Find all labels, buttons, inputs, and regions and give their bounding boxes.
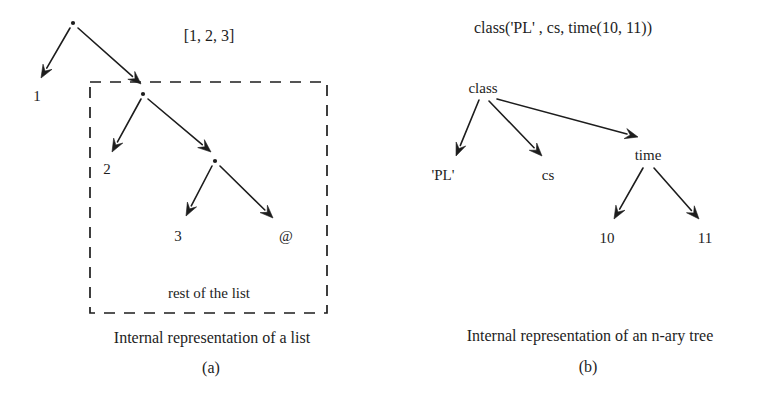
tree-nodes-group: class'PL'cstime1011 xyxy=(432,80,713,246)
figure-root: [1, 2, 3] 123@ rest of the list Internal… xyxy=(0,0,764,398)
list-edge-cons2-to-leaf3 xyxy=(191,166,212,206)
tree-edge-time-to-ten xyxy=(620,168,643,209)
list-edge-cons0-to-leaf1 xyxy=(47,28,70,68)
tree-node-label-class: class xyxy=(468,80,497,96)
tree-edge-class-to-pl xyxy=(460,100,479,145)
list-cons-cell-cons2 xyxy=(213,159,217,163)
tree-edge-class-to-cs xyxy=(489,101,534,148)
tree-edges-group xyxy=(456,99,699,219)
rest-of-list-note: rest of the list xyxy=(168,285,251,301)
list-cons-cell-cons1 xyxy=(141,92,145,96)
list-expression-label: [1, 2, 3] xyxy=(184,27,235,44)
tree-node-label-eleven: 11 xyxy=(698,230,712,246)
list-nodes-group: 123@ xyxy=(33,21,293,244)
list-edge-cons0-to-cons1 xyxy=(78,28,132,76)
panel-b: class('PL' , cs, time(10, 11)) class'PL'… xyxy=(432,19,714,376)
panel-a-caption: Internal representation of a list xyxy=(114,329,311,347)
tree-arrowhead-time-to-ten xyxy=(614,205,625,219)
list-node-label-leaf1: 1 xyxy=(33,88,41,104)
panel-b-caption: Internal representation of an n-ary tree xyxy=(467,327,714,345)
tree-node-label-cs: cs xyxy=(542,167,555,183)
tree-node-label-ten: 10 xyxy=(600,230,615,246)
tree-node-label-time: time xyxy=(635,147,662,163)
rest-of-list-dashed-box xyxy=(90,82,327,313)
term-expression-label: class('PL' , cs, time(10, 11)) xyxy=(474,19,652,37)
list-edge-cons2-to-leafnil xyxy=(220,166,265,210)
tree-node-label-pl: 'PL' xyxy=(432,167,455,183)
tree-edge-time-to-eleven xyxy=(654,168,691,210)
list-arrowhead-cons0-to-leaf1 xyxy=(41,64,52,78)
panel-b-caption-tag: (b) xyxy=(579,358,598,376)
panel-a-caption-tag: (a) xyxy=(202,359,220,377)
list-node-label-leaf3: 3 xyxy=(174,228,182,244)
list-edge-cons1-to-cons2 xyxy=(148,99,202,145)
list-node-label-leaf2: 2 xyxy=(103,161,111,177)
list-edge-cons1-to-leaf2 xyxy=(117,99,141,142)
list-cons-cell-cons0 xyxy=(71,21,75,25)
list-arrowhead-cons1-to-leaf2 xyxy=(112,138,123,152)
list-node-label-leafnil: @ xyxy=(279,228,293,244)
list-edges-group xyxy=(41,28,273,218)
figure-canvas: [1, 2, 3] 123@ rest of the list Internal… xyxy=(0,0,764,398)
panel-a: [1, 2, 3] 123@ rest of the list Internal… xyxy=(33,21,327,377)
